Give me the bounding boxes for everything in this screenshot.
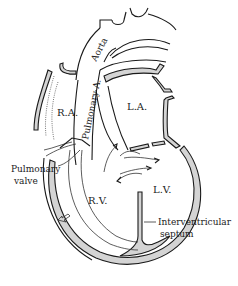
label-aorta: Aorta	[88, 35, 109, 63]
label-right-ventricle: R.V.	[88, 195, 107, 206]
left-atrium-walls	[130, 76, 180, 151]
label-septum: septum	[160, 229, 194, 239]
label-left-ventricle: L.V.	[153, 184, 171, 195]
label-right-atrium: R.A.	[57, 107, 78, 118]
label-interventricular: Interventricular	[158, 217, 232, 227]
label-pulmonary-valve: Pulmonary	[11, 164, 61, 174]
label-left-atrium: L.A.	[127, 101, 147, 112]
blood-flow-arrows	[58, 144, 159, 222]
right-ventricle-inner-lines	[44, 138, 138, 250]
ventricle-outer-wall	[43, 146, 200, 264]
heart-diagram: Aorta Pulmonary A. R.A. L.A. R.V. L.V. P…	[0, 0, 238, 286]
label-pulmonary-valve-2: valve	[13, 176, 38, 186]
right-atrium-walls	[34, 63, 76, 140]
